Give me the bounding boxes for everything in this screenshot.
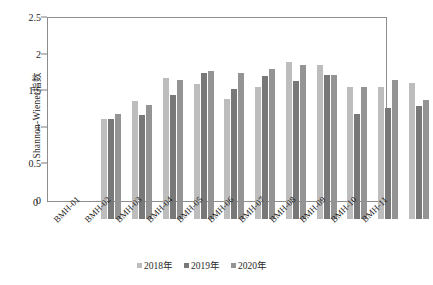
bar [392, 80, 398, 219]
bar [269, 69, 275, 219]
x-axis-origin-label: 0 [33, 197, 38, 208]
bar-group [403, 36, 433, 219]
y-axis-tick-label: 1.5 [29, 85, 42, 96]
bar [331, 75, 337, 219]
legend-label: 2018年 [144, 258, 173, 272]
bar [208, 71, 214, 219]
plot-area [47, 17, 387, 202]
bar-group [280, 36, 311, 219]
bar-group [311, 36, 342, 219]
bar [423, 100, 429, 219]
x-axis-label-slot: BMH-01 [48, 202, 79, 256]
y-axis-tick-label: 2.5 [29, 12, 42, 23]
bar [177, 80, 183, 219]
legend-item[interactable]: 2018年 [137, 258, 173, 272]
bar-group [219, 36, 250, 219]
x-axis-label-slot: BMH-10 [325, 202, 356, 256]
bar-group [188, 36, 219, 219]
chart-legend: 2018年2019年2020年 [0, 258, 404, 272]
bar [300, 65, 306, 219]
x-axis-label-slot: BMH-03 [109, 202, 140, 256]
bar-group [250, 36, 281, 219]
x-axis-label-slot: BMH-06 [202, 202, 233, 256]
bars-container [96, 36, 433, 219]
x-axis-label-slot: BMH-09 [294, 202, 325, 256]
legend-swatch-icon [137, 263, 142, 268]
legend-swatch-icon [184, 263, 189, 268]
bar-group [157, 36, 188, 219]
bar-group [96, 36, 127, 219]
legend-label: 2020年 [238, 258, 267, 272]
bar-group [373, 36, 404, 219]
legend-item[interactable]: 2020年 [231, 258, 267, 272]
x-axis-label-slot: BMH-08 [263, 202, 294, 256]
x-axis-label-slot: BMH-02 [79, 202, 110, 256]
bar-group [342, 36, 373, 219]
legend-swatch-icon [231, 263, 236, 268]
bar [238, 73, 244, 219]
bar [416, 106, 422, 219]
legend-label: 2019年 [191, 258, 220, 272]
x-axis-labels: BMH-01BMH-02BMH-03BMH-04BMH-05BMH-06BMH-… [48, 202, 386, 256]
x-axis-label-slot: BMH-05 [171, 202, 202, 256]
bar [409, 83, 415, 219]
bar-group [127, 36, 158, 219]
y-axis-tick-label: 0.5 [29, 158, 42, 169]
x-axis-label-slot: BMH-11 [355, 202, 386, 256]
y-axis-ticks: 00.511.522.5 [0, 17, 47, 202]
legend-item[interactable]: 2019年 [184, 258, 220, 272]
x-axis-label-slot: BMH-04 [140, 202, 171, 256]
bar [361, 87, 367, 219]
x-axis-label-slot: BMH-07 [232, 202, 263, 256]
